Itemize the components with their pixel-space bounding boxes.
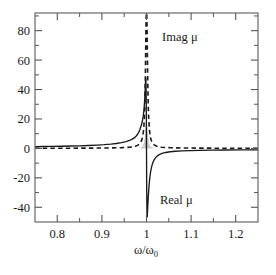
x-tick-label: 1.2 [228, 227, 244, 241]
permeability-resonance-chart: 0.80.911.11.2 806040200-20-40 ω/ω0 Imag … [0, 0, 276, 275]
y-tick-label: -20 [13, 171, 30, 185]
x-tick-label: 0.9 [94, 227, 110, 241]
x-tick-label: 1.1 [183, 227, 199, 241]
real-mu-label: Real μ [160, 193, 193, 207]
y-tick-label: 40 [18, 83, 31, 97]
y-tick-label: -40 [13, 201, 30, 215]
y-tick-label: 0 [24, 142, 30, 156]
figure-container: 0.80.911.11.2 806040200-20-40 ω/ω0 Imag … [0, 0, 276, 275]
y-tick-label: 20 [18, 112, 31, 126]
y-tick-label: 80 [18, 24, 31, 38]
x-tick-label: 0.8 [49, 227, 65, 241]
imag-mu-label: Imag μ [162, 30, 198, 44]
x-tick-label: 1 [143, 227, 149, 241]
y-tick-label: 60 [18, 54, 31, 68]
